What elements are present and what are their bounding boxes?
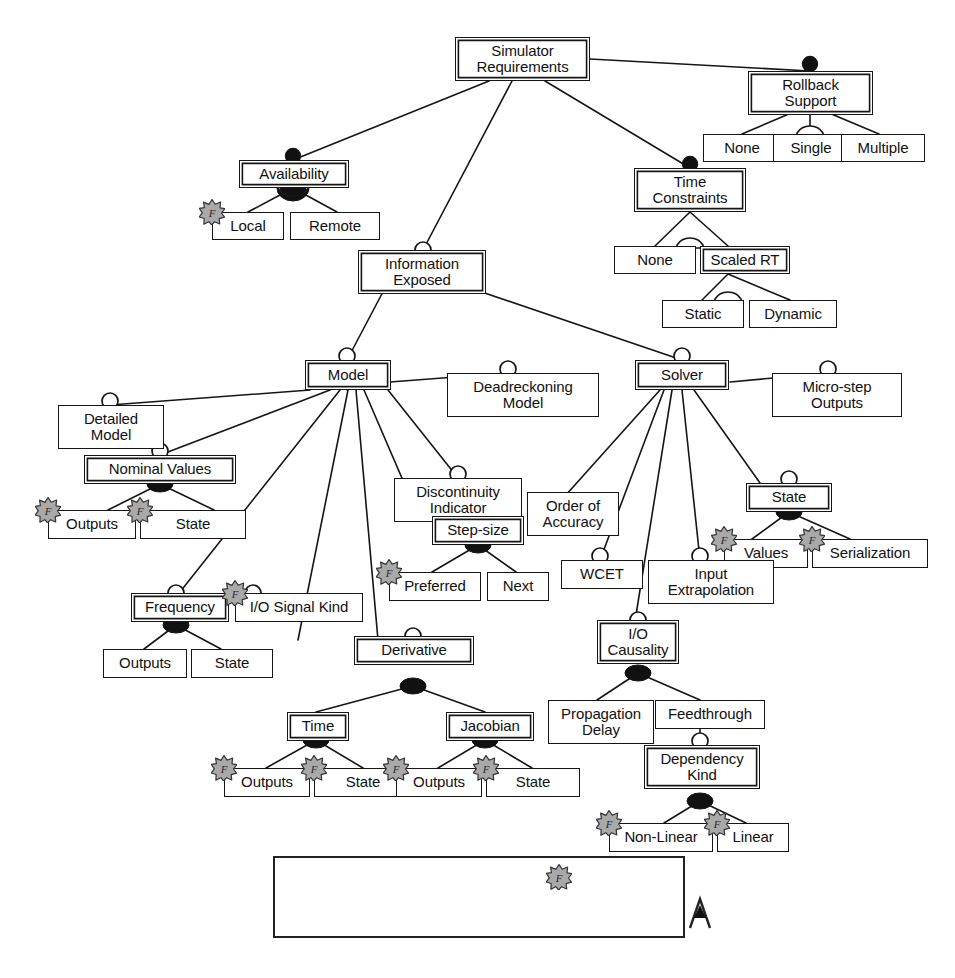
node-label: Derivative xyxy=(378,642,450,658)
node-nominal-values[interactable]: Nominal Values xyxy=(84,455,236,484)
node-label: None xyxy=(721,140,762,156)
node-label: I/O Signal Kind xyxy=(247,599,352,615)
node-label: Order ofAccuracy xyxy=(540,498,607,530)
node-deadreckoning-model[interactable]: DeadreckoningModel xyxy=(447,373,599,417)
node-label: Non-Linear xyxy=(621,829,700,845)
node-label: Outputs xyxy=(238,774,296,790)
node-label: Outputs xyxy=(63,516,121,532)
node-micro-step-outputs[interactable]: Micro-stepOutputs xyxy=(772,373,902,417)
node-time-constraints[interactable]: TimeConstraints xyxy=(634,168,746,212)
node-feedthrough[interactable]: Feedthrough xyxy=(655,700,765,729)
fmi-cs-badge-icon xyxy=(199,199,225,225)
node-dynamic[interactable]: Dynamic xyxy=(749,300,837,328)
node-label: Scaled RT xyxy=(708,252,783,268)
mandatory-marker xyxy=(803,57,818,72)
node-derivative-time[interactable]: Time xyxy=(287,712,349,741)
fmi-cs-badge-icon xyxy=(301,755,327,781)
node-rollback-none[interactable]: None xyxy=(703,134,781,162)
node-rollback-single[interactable]: Single xyxy=(773,134,849,162)
fmi-cs-badge-icon xyxy=(711,526,737,552)
node-propagation-delay[interactable]: PropagationDelay xyxy=(548,700,654,744)
node-label: Jacobian xyxy=(457,718,522,734)
node-label: DependencyKind xyxy=(657,751,746,783)
node-label: Availability xyxy=(256,166,331,182)
node-availability-remote[interactable]: Remote xyxy=(290,212,380,240)
node-rollback-support[interactable]: RollbackSupport xyxy=(748,71,873,115)
node-io-causality[interactable]: I/OCausality xyxy=(597,620,679,664)
node-simulator-requirements[interactable]: SimulatorRequirements xyxy=(455,37,590,81)
node-label: InputExtrapolation xyxy=(665,566,757,598)
legend-panel xyxy=(273,856,685,938)
fmi-cs-badge-icon xyxy=(35,497,61,523)
node-label: Frequency xyxy=(142,599,218,615)
node-label: Preferred xyxy=(401,578,469,594)
node-label: State xyxy=(212,655,253,671)
node-label: Local xyxy=(227,218,268,234)
node-io-signal-kind[interactable]: I/O Signal Kind xyxy=(235,593,363,622)
fmi-cs-badge-icon xyxy=(376,559,402,585)
node-label: RollbackSupport xyxy=(779,77,842,109)
node-step-preferred[interactable]: Preferred xyxy=(389,572,481,601)
node-state-serialization[interactable]: Serialization xyxy=(812,539,928,568)
node-label: Model xyxy=(325,367,371,383)
node-nominal-state[interactable]: State xyxy=(140,510,246,539)
node-scaled-rt[interactable]: Scaled RT xyxy=(700,246,790,274)
fmi-cs-badge-icon xyxy=(799,526,825,552)
node-label: InformationExposed xyxy=(382,256,462,288)
node-model[interactable]: Model xyxy=(305,360,391,390)
fmi-cs-badge-icon xyxy=(222,580,248,606)
node-label: SimulatorRequirements xyxy=(473,43,571,75)
node-label: DetailedModel xyxy=(81,411,141,443)
node-availability[interactable]: Availability xyxy=(239,160,349,188)
node-frequency[interactable]: Frequency xyxy=(131,593,229,622)
node-non-linear[interactable]: Non-Linear xyxy=(609,823,713,852)
node-label: PropagationDelay xyxy=(558,706,644,738)
node-label: I/OCausality xyxy=(605,626,672,658)
node-solver-state[interactable]: State xyxy=(746,483,832,512)
node-time-none[interactable]: None xyxy=(614,246,696,274)
fmi-cs-badge-icon xyxy=(596,810,622,836)
fmi-cs-badge-icon xyxy=(383,755,409,781)
node-label: Micro-stepOutputs xyxy=(799,379,874,411)
node-label: Multiple xyxy=(855,140,912,156)
node-solver[interactable]: Solver xyxy=(635,360,729,390)
node-label: Remote xyxy=(306,218,364,234)
node-label: State xyxy=(173,516,214,532)
node-label: State xyxy=(769,489,810,505)
node-wcet[interactable]: WCET xyxy=(561,560,643,589)
node-step-size[interactable]: Step-size xyxy=(432,516,524,545)
node-label: Next xyxy=(500,578,536,594)
node-jacobian-state[interactable]: State xyxy=(486,768,580,797)
node-label: Serialization xyxy=(827,545,913,561)
node-label: State xyxy=(343,774,384,790)
node-label: DiscontinuityIndicator xyxy=(413,484,503,516)
node-frequency-state[interactable]: State xyxy=(191,649,273,678)
node-label: State xyxy=(513,774,554,790)
node-label: TimeConstraints xyxy=(650,174,731,206)
node-information-exposed[interactable]: InformationExposed xyxy=(358,250,486,294)
node-label: Linear xyxy=(729,829,776,845)
node-label: Static xyxy=(682,306,725,322)
node-label: Feedthrough xyxy=(665,706,755,722)
node-order-of-accuracy[interactable]: Order ofAccuracy xyxy=(527,492,619,536)
node-step-next[interactable]: Next xyxy=(487,572,549,601)
feature-model-diagram: F xyxy=(0,0,955,978)
node-derivative[interactable]: Derivative xyxy=(354,636,474,665)
node-jacobian[interactable]: Jacobian xyxy=(446,712,534,741)
fmi-cs-badge-icon xyxy=(127,497,153,523)
node-input-extrapolation[interactable]: InputExtrapolation xyxy=(648,560,774,604)
node-frequency-outputs[interactable]: Outputs xyxy=(103,649,187,678)
node-label: Solver xyxy=(658,367,706,383)
node-label: Step-size xyxy=(444,522,512,538)
node-nominal-outputs[interactable]: Outputs xyxy=(48,510,136,539)
node-detailed-model[interactable]: DetailedModel xyxy=(58,405,164,449)
fmi-cs-badge-icon xyxy=(546,864,572,890)
node-dependency-kind[interactable]: DependencyKind xyxy=(644,745,760,789)
node-static[interactable]: Static xyxy=(662,300,744,328)
node-label: None xyxy=(634,252,675,268)
node-label: Dynamic xyxy=(761,306,825,322)
fmi-cs-badge-icon xyxy=(211,755,237,781)
node-label: Time xyxy=(299,718,337,734)
fmi-cs-badge-icon xyxy=(704,810,730,836)
node-rollback-multiple[interactable]: Multiple xyxy=(841,134,925,162)
